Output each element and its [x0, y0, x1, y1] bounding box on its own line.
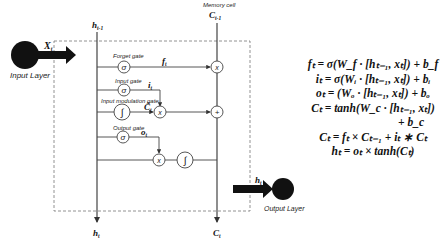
equation-cell-state: Cₜ = fₜ × Cₜ₋₁ + iₜ ∗ Cₜ — [300, 130, 446, 145]
output-layer-node — [272, 178, 294, 200]
input-modulation-gate-label: Input modulation gate — [101, 98, 159, 104]
input-xt-symbol: Xt — [43, 40, 53, 52]
ft-symbol: ft — [162, 56, 167, 67]
multiply-icon: x — [157, 109, 162, 116]
memory-cell-label: Memory cell — [203, 2, 236, 8]
equation-hidden-state: hₜ = oₜ × tanh(Cₜ) — [300, 144, 446, 159]
h-out-bottom-symbol: ht — [93, 228, 100, 239]
input-gate-label: Input gate — [115, 78, 142, 84]
equation-forget: fₜ = σ(W_f · [hₜ₋₁, xₜ]) + b_f — [300, 57, 446, 72]
multiply-icon: x — [214, 64, 219, 71]
equation-candidate-bias: + b_c — [300, 115, 446, 130]
multiply-icon: x — [156, 157, 161, 164]
forget-gate-label: Forget gate — [113, 53, 144, 59]
equation-candidate: Cₜ = tanh(W_c · [hₜ₋₁, xₜ]) — [300, 101, 446, 116]
equation-input: iₜ = σ(Wᵢ · [hₜ₋₁, xₜ]) + bᵢ — [300, 72, 446, 87]
c-out-bottom-symbol: Ct — [213, 228, 221, 239]
equation-output: oₜ = (Wₒ · [hₜ₋₁, xₜ]) + bₒ — [300, 86, 446, 101]
output-arrow-shaft — [233, 185, 265, 193]
input-layer-label: Input Layer — [10, 71, 50, 80]
equations-panel: fₜ = σ(W_f · [hₜ₋₁, xₜ]) + b_f iₜ = σ(Wᵢ… — [300, 57, 446, 159]
input-arrow-head — [66, 46, 76, 64]
plus-icon: + — [215, 108, 220, 117]
h-prev-symbol: ht-1 — [92, 20, 103, 31]
ht-output-symbol: ht — [255, 175, 262, 186]
input-arrow-shaft — [25, 51, 67, 59]
c-prev-symbol: Ct-1 — [209, 10, 221, 21]
output-layer-label: Output Layer — [264, 205, 305, 213]
output-arrow-head — [263, 180, 273, 198]
it-symbol: it — [148, 80, 153, 91]
ot-symbol: ot — [141, 127, 148, 138]
